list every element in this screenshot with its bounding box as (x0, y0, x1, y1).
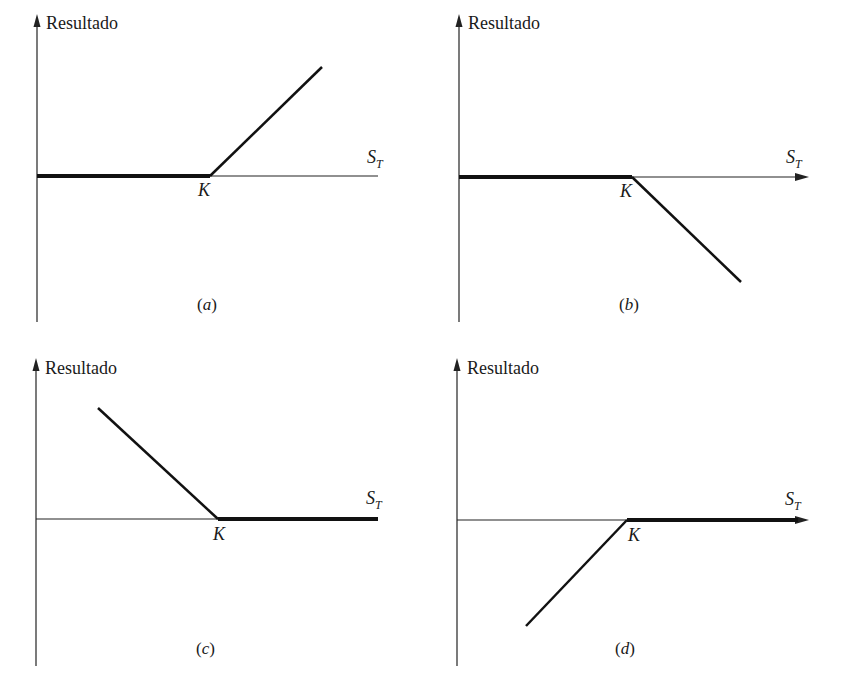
payoff-diagrams: Resultado ST K (a) Resultado ST K (b) Re… (0, 0, 844, 681)
y-axis-arrow-icon (456, 14, 463, 27)
y-axis-arrow-icon (454, 358, 461, 371)
panel-a: Resultado ST K (a) (34, 13, 385, 322)
x-axis-arrow-icon (795, 173, 809, 181)
panel-c: Resultado ST K (c) (33, 358, 384, 666)
y-axis-label: Resultado (468, 13, 540, 33)
y-axis-arrow-icon (34, 14, 41, 27)
strike-label: K (619, 181, 633, 201)
strike-label: K (627, 525, 641, 545)
y-axis-label: Resultado (45, 358, 117, 378)
x-axis-label: ST (367, 147, 384, 171)
panel-b: Resultado ST K (b) (456, 13, 810, 322)
panel-caption: (b) (619, 295, 639, 314)
y-axis-arrow-icon (33, 358, 40, 371)
panel-caption: (d) (615, 639, 635, 658)
x-axis-label: ST (366, 488, 383, 512)
payoff-slope-segment (632, 177, 741, 282)
panel-caption: (c) (196, 639, 215, 658)
payoff-slope-segment (98, 408, 218, 519)
y-axis-label: Resultado (467, 358, 539, 378)
panel-d: Resultado ST K (d) (454, 358, 810, 666)
payoff-slope-segment (526, 520, 627, 626)
x-axis-label: ST (786, 147, 803, 171)
panel-caption: (a) (197, 295, 217, 314)
y-axis-label: Resultado (46, 13, 118, 33)
strike-label: K (212, 524, 226, 544)
x-axis-label: ST (785, 489, 802, 513)
payoff-slope-segment (210, 67, 322, 176)
strike-label: K (197, 180, 211, 200)
